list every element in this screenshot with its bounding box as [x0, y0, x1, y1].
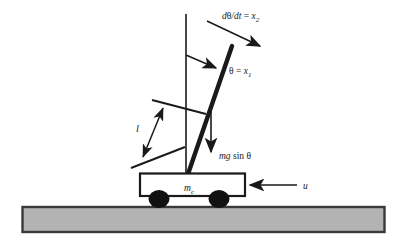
- gravity-sin: sin: [231, 151, 247, 161]
- angular-velocity-subscript: 2: [256, 16, 260, 24]
- ground-surface: [23, 207, 385, 232]
- length-label: l: [136, 123, 139, 134]
- gravity-mg: mg: [219, 151, 231, 161]
- wheel-right: [209, 190, 230, 208]
- control-input-label: u: [303, 181, 308, 191]
- pendulum-cart-schematic: dθ/dt = x2 θ = x1 mg sin θ l mc u: [0, 0, 409, 243]
- angular-velocity-dt: /dt: [230, 11, 241, 21]
- angular-velocity-equals: =: [241, 11, 251, 21]
- gravity-theta: θ: [246, 151, 251, 161]
- length-dimension-arrow: [143, 108, 163, 157]
- angle-equals: =: [234, 66, 244, 76]
- angular-velocity-label: dθ/dt = x2: [222, 11, 260, 24]
- length-tick-upper: [152, 100, 206, 114]
- angular-velocity-arrow: [207, 21, 260, 46]
- gravity-component-label: mg sin θ: [219, 151, 251, 161]
- inverted-pendulum-diagram: dθ/dt = x2 θ = x1 mg sin θ l mc u: [0, 0, 409, 243]
- length-tick-lower: [131, 147, 185, 168]
- angle-subscript: 1: [248, 71, 252, 79]
- angle-label: θ = x1: [229, 66, 251, 79]
- angle-indicator-arrow: [186, 55, 216, 68]
- wheel-left: [149, 190, 170, 208]
